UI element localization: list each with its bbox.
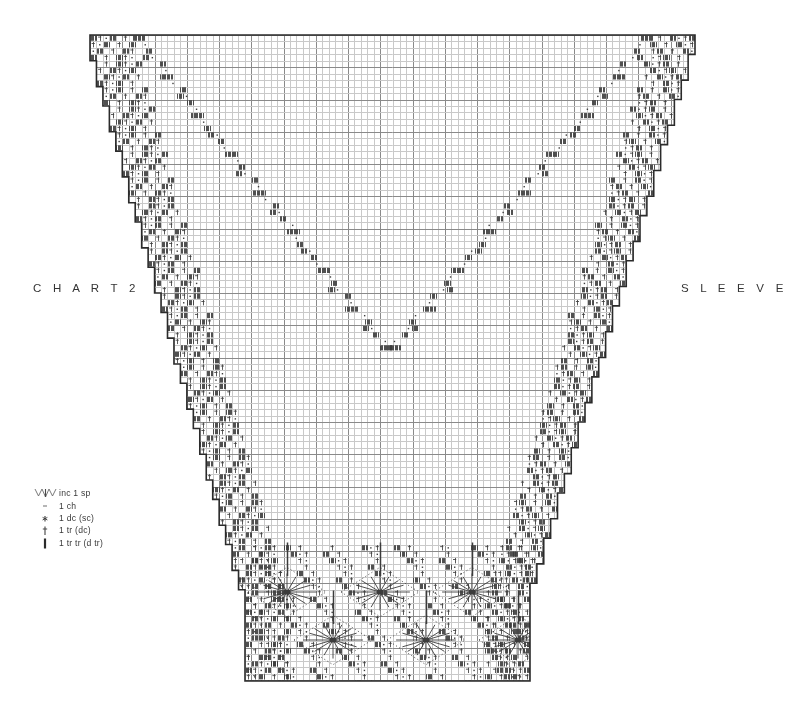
chain-dot-icon xyxy=(33,499,59,511)
legend-label: 1 dc (sc) xyxy=(59,513,94,523)
legend-label: inc 1 sp xyxy=(59,488,91,498)
legend-label: 1 ch xyxy=(59,501,76,511)
legend-item-inc-sp: inc 1 sp xyxy=(33,487,183,499)
double-treble-icon xyxy=(33,537,59,549)
sleeve-title: S L E E V E xyxy=(681,282,786,294)
legend: inc 1 sp 1 ch 1 dc (sc) xyxy=(33,487,183,549)
page-title: C H A R T 2 xyxy=(33,282,140,294)
inc-fan-icon xyxy=(33,487,59,499)
legend-item-chain: 1 ch xyxy=(33,499,183,511)
legend-item-double-crochet: 1 dc (sc) xyxy=(33,512,183,524)
legend-label: 1 tr tr (d tr) xyxy=(59,538,103,548)
legend-label: 1 tr (dc) xyxy=(59,525,91,535)
double-cross-icon xyxy=(33,512,59,524)
legend-item-treble: 1 tr (dc) xyxy=(33,524,183,536)
chart-stage: C H A R T 2 S L E E V E inc 1 sp 1 ch xyxy=(0,0,786,714)
legend-item-double-treble: 1 tr tr (d tr) xyxy=(33,537,183,549)
treble-icon xyxy=(33,524,59,536)
filet-crochet-sleeve-chart xyxy=(0,0,786,714)
